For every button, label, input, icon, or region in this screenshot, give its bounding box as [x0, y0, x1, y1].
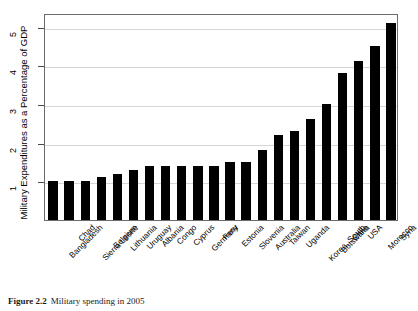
y-tick-label-4: 4 — [9, 66, 18, 80]
bar — [258, 150, 267, 220]
bar — [113, 174, 122, 220]
x-tick-label: Syria — [398, 223, 418, 243]
bar — [241, 162, 250, 220]
y-axis: Military Expenditures as a Percentage of… — [0, 0, 44, 311]
bar — [97, 177, 106, 220]
y-tick-label-5: 5 — [9, 27, 18, 41]
bar — [209, 166, 218, 220]
caption-text: Military spending in 2005 — [51, 296, 145, 306]
y-tick-label-1: 1 — [9, 182, 18, 196]
y-axis-title: Military Expenditures as a Percentage of… — [18, 23, 29, 223]
bar — [338, 73, 347, 220]
bar — [145, 166, 154, 220]
bar — [306, 119, 315, 220]
bar — [64, 181, 73, 220]
y-tick-label-3: 3 — [9, 104, 18, 118]
bar — [161, 166, 170, 220]
y-tick-label-2: 2 — [9, 143, 18, 157]
bar — [193, 166, 202, 220]
x-axis: BangladeshChadSierra LeoneBelgiumLithuan… — [44, 221, 398, 301]
figure-caption: Figure 2.2Military spending in 2005 — [8, 296, 145, 306]
plot-area — [44, 14, 398, 221]
caption-label: Figure 2.2 — [8, 296, 47, 306]
bar — [386, 23, 395, 220]
bar — [322, 104, 331, 220]
bar-series — [45, 15, 397, 220]
bar — [274, 135, 283, 220]
bar — [81, 181, 90, 220]
bar — [225, 162, 234, 220]
bar — [129, 170, 138, 220]
bar — [290, 131, 299, 220]
bar — [177, 166, 186, 220]
bar — [48, 181, 57, 220]
bar — [354, 61, 363, 220]
bar — [370, 46, 379, 220]
